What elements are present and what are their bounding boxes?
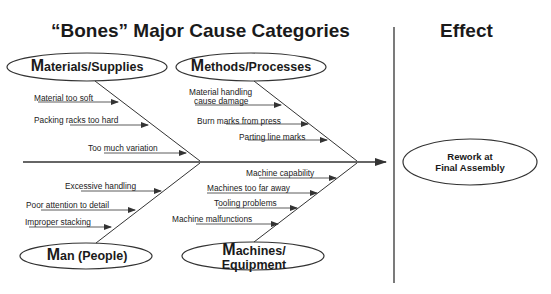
category-machines: Machines/ Equipment xyxy=(183,243,325,272)
effect-label: Rework at Final Assembly xyxy=(410,151,530,173)
cause-burn-marks: Burn marks from press xyxy=(197,116,281,126)
cause-machine-capability: Machine capability xyxy=(246,168,314,178)
category-initial: M xyxy=(222,241,235,258)
cause-machine-malfunctions: Machine malfunctions xyxy=(172,214,252,224)
cause-tooling-problems: Tooling problems xyxy=(214,198,277,208)
cause-material-too-soft: Material too soft xyxy=(34,93,93,103)
category-man: Man (People) xyxy=(22,248,152,263)
main-title: “Bones” Major Cause Categories xyxy=(51,20,350,42)
category-methods: Methods/Processes xyxy=(180,59,322,74)
category-materials: Materials/Supplies xyxy=(13,59,161,74)
category-initial: M xyxy=(191,57,204,74)
cause-improper-stacking: Improper stacking xyxy=(25,217,91,227)
cause-poor-attention: Poor attention to detail xyxy=(26,200,109,210)
cause-packing-racks: Packing racks too hard xyxy=(34,115,118,125)
cause-machines-too-far: Machines too far away xyxy=(207,183,290,193)
category-initial: M xyxy=(47,246,60,263)
cause-cause-damage: cause damage xyxy=(194,96,248,106)
cause-parting-line-marks: Parting line marks xyxy=(239,132,305,142)
cause-excessive-handling: Excessive handling xyxy=(65,181,136,191)
effect-header: Effect xyxy=(440,20,493,42)
cause-too-much-variation: Too much variation xyxy=(88,143,158,153)
category-initial: M xyxy=(31,57,44,74)
